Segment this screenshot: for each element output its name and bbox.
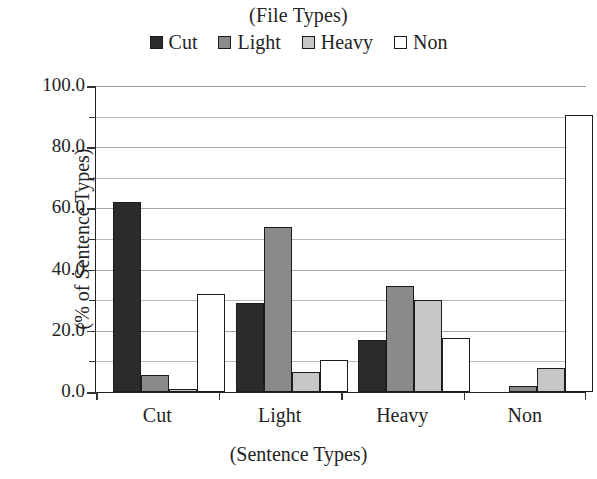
bar-non-heavy [537,368,565,392]
legend-label: Light [237,32,280,52]
y-axis-tick-label: 100.0 [42,74,85,96]
gridline-major [96,86,586,87]
legend-swatch-icon [218,36,231,49]
bar-light-cut [236,303,264,392]
bar-heavy-cut [358,340,386,392]
chart-figure: (File Types) CutLightHeavyNon (% of Sent… [0,0,597,479]
gridline-major [96,208,586,209]
gridline-minor [96,300,586,301]
y-axis-tick-minor [89,117,96,118]
x-axis-title: (Sentence Types) [0,443,597,466]
gridline-major [96,147,586,148]
bar-light-non [320,360,348,392]
legend-item-light[interactable]: Light [218,32,280,52]
y-axis-tick [87,86,96,88]
legend-label: Heavy [321,32,373,52]
bar-cut-heavy [169,389,197,392]
x-axis-tick-label: Non [508,404,542,427]
x-axis-tick [464,392,466,400]
legend-swatch-icon [394,36,407,49]
x-axis-tick [585,392,587,400]
gridline-minor [96,117,586,118]
plot-area: (% of Sentence Types) 0.020.040.060.080.… [95,86,586,393]
legend-swatch-icon [302,36,315,49]
gridline-minor [96,178,586,179]
y-axis-tick [87,270,96,272]
gridline-major [96,331,586,332]
x-axis-tick-label: Heavy [376,404,428,427]
x-axis-tick [341,392,343,400]
legend-label: Non [413,32,447,52]
y-axis-tick-minor [89,178,96,179]
chart-title: (File Types) [0,4,597,27]
x-axis-tick [96,392,98,400]
bar-heavy-light [386,286,414,392]
y-axis-tick-minor [89,361,96,362]
y-axis-tick-minor [89,300,96,301]
legend-item-non[interactable]: Non [394,32,447,52]
bar-non-non [565,115,593,392]
y-axis-tick-label: 40.0 [52,258,85,280]
x-axis-tick-label: Cut [143,404,172,427]
y-axis-tick-minor [89,239,96,240]
y-axis-tick [87,208,96,210]
x-axis-tick-label: Light [258,404,301,427]
bar-cut-non [197,294,225,392]
gridline-minor [96,239,586,240]
x-axis-tick [219,392,221,400]
y-axis-tick [87,147,96,149]
y-axis-tick-label: 60.0 [52,197,85,219]
y-axis-tick-label: 20.0 [52,319,85,341]
bar-heavy-non [442,338,470,392]
bar-light-heavy [292,372,320,392]
y-axis-tick-label: 0.0 [61,380,85,402]
bar-heavy-heavy [414,300,442,392]
gridline-major [96,270,586,271]
bar-cut-light [141,375,169,392]
y-axis-tick [87,392,96,394]
y-axis-tick-label: 80.0 [52,136,85,158]
bar-cut-cut [113,202,141,392]
legend-item-heavy[interactable]: Heavy [302,32,373,52]
legend-label: Cut [169,32,198,52]
y-axis-tick [87,331,96,333]
legend-swatch-icon [150,36,163,49]
bar-non-light [509,386,537,392]
legend-item-cut[interactable]: Cut [150,32,198,52]
chart-legend: CutLightHeavyNon [0,32,597,52]
bar-light-light [264,227,292,392]
